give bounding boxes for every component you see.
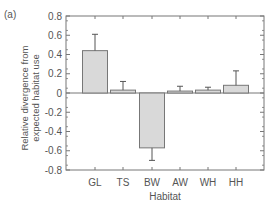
y-tick-label: 0.2	[48, 68, 62, 79]
x-tick-label: AW	[172, 177, 188, 188]
bar-chart: -0.8-0.6-0.4-0.200.20.40.60.8GLTSBWAWWHH…	[0, 0, 280, 210]
bar-aw	[168, 91, 193, 93]
x-tick-label: BW	[144, 177, 161, 188]
bar-bw	[140, 93, 165, 148]
y-tick-label: 0.4	[48, 49, 62, 60]
y-tick-label: -0.4	[45, 126, 63, 137]
y-tick-label: -0.6	[45, 145, 63, 156]
x-tick-label: HH	[229, 177, 243, 188]
y-tick-label: -0.2	[45, 107, 63, 118]
y-tick-label: 0	[56, 88, 62, 99]
x-tick-label: GL	[88, 177, 102, 188]
y-tick-label: 0.8	[48, 11, 62, 22]
y-tick-label: -0.8	[45, 165, 63, 176]
y-tick-label: 0.6	[48, 30, 62, 41]
x-axis-label: Habitat	[149, 191, 181, 202]
bar-wh	[196, 90, 221, 93]
x-tick-label: WH	[200, 177, 217, 188]
x-tick-label: TS	[117, 177, 130, 188]
bar-ts	[111, 90, 136, 93]
bar-hh	[224, 85, 249, 93]
bar-gl	[83, 51, 108, 93]
